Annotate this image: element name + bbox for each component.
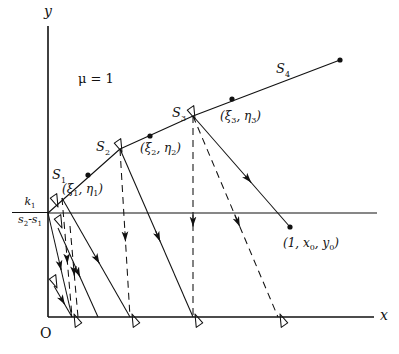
ratio-numerator: k1	[12, 196, 48, 213]
node-label-xi3: (ξ3, η3)	[220, 110, 261, 125]
solid-3-arrow	[156, 231, 160, 241]
k-over-s-difference-label: k1 s2-s1	[12, 196, 48, 228]
dashed-4-arrow	[235, 214, 240, 226]
axes-group	[48, 26, 374, 317]
origin-label: O	[40, 326, 51, 340]
dashed-1-arrow	[67, 256, 68, 263]
solid-1-arrow	[60, 264, 61, 270]
node-dot-endpoint-1x0y0	[287, 224, 292, 229]
figure-canvas: y x O μ = 1 k1 s2-s1 S1 S2 S3 S4 (ξ1, η1…	[0, 0, 399, 354]
lower-solid-b-arrow	[64, 303, 65, 305]
node-label-endpoint: (1, x0, y0)	[283, 237, 339, 252]
solid-4-arrow	[245, 176, 251, 183]
solid-2-arrow	[95, 256, 99, 263]
node-dot-curve-end	[337, 57, 342, 62]
dashed-2-arrow	[125, 231, 126, 241]
x-axis-label: x	[380, 308, 388, 322]
node-point-group	[85, 57, 342, 229]
marker-foot-4	[277, 313, 289, 328]
marker-foot-1	[71, 313, 83, 328]
node-label-xi1: (ξ1, η1)	[62, 183, 103, 198]
node-label-xi2: (ξ2, η2)	[140, 142, 181, 157]
marker-s2	[114, 139, 126, 154]
node-dot-xi3	[229, 96, 234, 101]
corner-marker-group	[49, 106, 289, 328]
lower-solid-a-arrow	[78, 272, 80, 277]
node-dot-xi1	[85, 172, 90, 177]
y-axis-label: y	[44, 4, 52, 18]
ratio-denominator: s2-s1	[12, 213, 48, 229]
node-dot-xi2	[147, 133, 152, 138]
solid-4	[193, 116, 290, 227]
marker-foot-2	[129, 313, 141, 328]
lower-solid-b	[54, 286, 72, 317]
segment-label-s4: S4	[276, 62, 290, 79]
marker-foot-3	[192, 313, 204, 328]
segment-label-s2: S2	[96, 140, 110, 157]
mu-annotation: μ = 1	[78, 72, 114, 85]
segment-label-s3: S3	[172, 106, 186, 123]
